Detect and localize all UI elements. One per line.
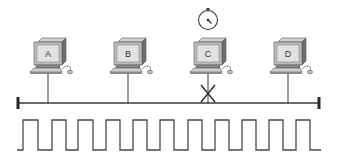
node-c-label: C: [205, 49, 212, 59]
node-a: A: [30, 38, 73, 103]
node-d: D: [270, 38, 313, 103]
node-b-label: B: [125, 49, 131, 59]
bus-terminator-left: [17, 97, 20, 109]
bus-line: [17, 97, 321, 109]
stopwatch-icon: [199, 8, 218, 30]
square-wave-signal: [17, 120, 321, 150]
node-c: C: [190, 38, 233, 103]
computer-icon: [270, 38, 313, 74]
node-d-label: D: [285, 49, 292, 59]
computer-icon: [30, 38, 73, 74]
bus-terminator-right: [318, 97, 321, 109]
network-diagram: A B C D: [0, 0, 339, 163]
node-b: B: [110, 38, 153, 103]
computer-icon: [190, 38, 233, 74]
computer-icon: [110, 38, 153, 74]
node-a-label: A: [45, 49, 51, 59]
